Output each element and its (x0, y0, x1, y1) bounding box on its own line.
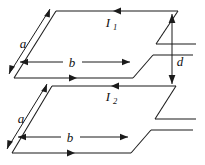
dimension-a-bottom-line (7, 84, 47, 149)
label-base-b-bottom: b (67, 130, 74, 145)
label-current-i1: I (105, 15, 111, 30)
lower-loop-lower-slant (131, 130, 151, 153)
upper-loop-lower-slant (133, 55, 153, 78)
label-side-a-bottom: a (18, 111, 25, 126)
current-arrow-i1 (113, 8, 121, 15)
dimension-d-arrow-down (169, 75, 176, 84)
dimension-d-arrow-up (169, 14, 176, 23)
lower-loop-bottom-current-arrow (67, 150, 75, 157)
current-arrow-i2 (111, 83, 119, 90)
dimension-b-bottom-arrow-left (18, 134, 26, 140)
label-separation-d: d (177, 54, 184, 69)
dimension-a-top-line (9, 9, 50, 74)
lower-loop-right-slant (155, 86, 176, 119)
label-base-b-top: b (69, 55, 76, 70)
upper-loop-bottom-current-arrow (69, 75, 77, 82)
label-side-a-top: a (20, 36, 27, 51)
upper-loop-right-slant (156, 11, 178, 44)
dimension-b-top-arrow-left (20, 59, 28, 65)
dimension-b-top-arrow-right (122, 59, 130, 65)
dimension-a-bottom-arrow-lower (7, 140, 13, 149)
label-current-i2-subscript: 2 (113, 96, 118, 106)
dimension-a-top-arrow-lower (9, 65, 15, 74)
dimension-b-bottom-arrow-right (120, 134, 128, 140)
current-loops-diagram: I 1 I 2 a a b b d (0, 0, 205, 165)
figure-container: I 1 I 2 a a b b d (0, 0, 205, 165)
label-current-i1-subscript: 1 (113, 22, 117, 32)
label-current-i2: I (105, 89, 111, 104)
